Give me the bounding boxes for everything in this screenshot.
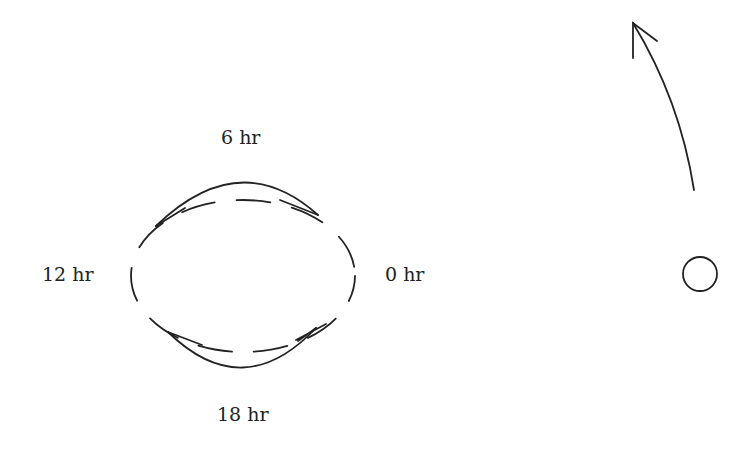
label-0hr: 0 hr — [385, 263, 424, 285]
label-6hr: 6 hr — [221, 126, 260, 148]
circle-icon — [683, 257, 717, 291]
top-arc — [156, 183, 318, 226]
curved-arrow-icon — [633, 23, 694, 190]
bottom-arc — [168, 328, 316, 368]
top-arc-arrowhead-right — [280, 200, 318, 215]
bottom-arc-arrowhead-right — [296, 324, 326, 341]
bottom-arc-arrowhead-left — [168, 332, 202, 345]
diagram-svg — [0, 0, 748, 449]
dashed-orbit — [131, 200, 355, 352]
label-18hr: 18 hr — [217, 403, 269, 425]
diagram-canvas: 6 hr 12 hr 0 hr 18 hr — [0, 0, 748, 449]
label-12hr: 12 hr — [42, 263, 94, 285]
top-arc-arrowhead-left — [156, 208, 185, 226]
